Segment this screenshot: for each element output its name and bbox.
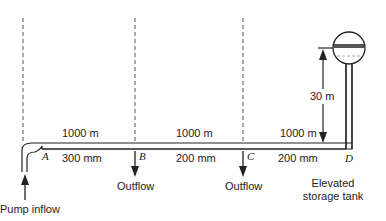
segment-ab-diameter: 300 mm <box>62 152 102 164</box>
segment-bc-length: 1000 m <box>176 127 213 139</box>
segment-bc-diameter: 200 mm <box>176 152 216 164</box>
pipe-network-diagram: 30 m 1000 m 1000 m 1000 m 300 mm 200 mm … <box>0 0 386 221</box>
node-b-label: B <box>139 150 146 162</box>
dashed-reference-lines <box>23 18 243 144</box>
tank-label-line2: storage tank <box>303 190 364 202</box>
segment-cd-diameter: 200 mm <box>278 152 318 164</box>
node-c-label: C <box>247 150 255 162</box>
arrow-up-icon <box>21 174 29 185</box>
segment-cd-length: 1000 m <box>280 127 317 139</box>
pipe-end-d <box>346 143 352 149</box>
node-a-label: A <box>41 150 49 162</box>
elevation-label: 30 m <box>310 90 334 102</box>
outflow-b-arrow-icon <box>131 166 139 177</box>
tank-water-surface <box>334 44 364 48</box>
pump-inflow-label: Pump inflow <box>0 203 60 215</box>
node-d-label: D <box>344 152 353 164</box>
pump-inflow-arrow <box>21 174 29 200</box>
elevated-storage-tank <box>333 32 365 149</box>
tank-label-line1: Elevated <box>312 177 355 189</box>
arrow-down-icon <box>319 132 327 143</box>
outflow-b-label: Outflow <box>117 180 154 192</box>
segment-ab-length: 1000 m <box>62 127 99 139</box>
outflow-c-label: Outflow <box>225 180 262 192</box>
outflow-c-arrow-icon <box>239 166 247 177</box>
arrow-up-icon <box>319 49 327 60</box>
